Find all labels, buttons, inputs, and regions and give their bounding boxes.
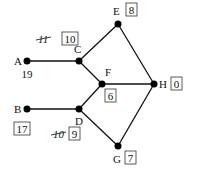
node-d <box>76 106 83 113</box>
node-label-a: A <box>14 55 22 67</box>
edge-g-h <box>118 84 154 146</box>
node-a <box>24 58 31 65</box>
edge-c-f <box>79 61 102 84</box>
node-h <box>151 81 158 88</box>
node-value-b: 17 <box>17 123 29 135</box>
node-label-d: D <box>75 115 83 127</box>
edge-c-e <box>79 24 118 61</box>
node-c <box>76 58 83 65</box>
edge-d-g <box>79 109 118 146</box>
node-label-e: E <box>113 5 120 17</box>
node-f <box>99 81 106 88</box>
node-value-g: 7 <box>128 152 134 164</box>
edge-e-h <box>118 24 154 84</box>
node-value-h: 0 <box>174 78 180 90</box>
node-g <box>115 143 122 150</box>
node-b <box>24 106 31 113</box>
node-label-b: B <box>14 103 21 115</box>
node-label-h: H <box>159 78 167 90</box>
edge-d-f <box>79 84 102 109</box>
node-e <box>115 21 122 28</box>
node-label-f: F <box>105 66 111 78</box>
node-value-e: 8 <box>129 4 135 16</box>
node-value-f: 6 <box>108 90 114 102</box>
node-label-g: G <box>113 153 121 165</box>
node-value-a: 19 <box>22 68 34 80</box>
node-value-c: 10 <box>65 33 77 45</box>
network-diagram: A19B17C1011D910E8F6G7H0 <box>0 0 197 172</box>
node-value-d: 9 <box>72 128 78 140</box>
